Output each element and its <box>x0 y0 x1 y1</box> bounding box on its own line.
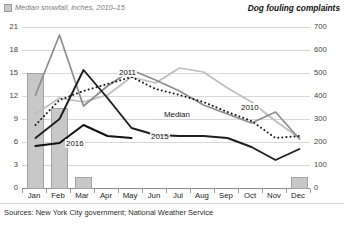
month-label-dec: Dec <box>286 191 310 200</box>
source-note: Sources: New York City government; Natio… <box>4 208 213 217</box>
label-2010: 2010 <box>240 103 260 112</box>
plot-area: 2011 2010 Median 2015 2016 <box>22 27 310 189</box>
right-tick-4: 300 <box>314 115 327 123</box>
right-tick-1: 600 <box>314 46 327 54</box>
footer-rule <box>0 203 344 204</box>
left-tick-2: 15 <box>10 69 18 77</box>
right-tick-0: 700 <box>314 23 327 31</box>
month-label-nov: Nov <box>262 191 286 200</box>
month-label-mar: Mar <box>70 191 94 200</box>
left-tick-4: 9 <box>14 115 18 123</box>
label-2016: 2016 <box>65 139 85 148</box>
right-tick-5: 200 <box>314 138 327 146</box>
chart-title: Dog fouling complaints <box>248 3 340 13</box>
left-tick-6: 3 <box>14 161 18 169</box>
month-label-oct: Oct <box>238 191 262 200</box>
label-2015: 2015 <box>150 132 170 141</box>
right-tick-7: 0 <box>314 184 318 192</box>
left-tick-0: 21 <box>10 23 18 31</box>
left-tick-1: 18 <box>10 46 18 54</box>
month-label-jan: Jan <box>22 191 46 200</box>
xtick-12 <box>310 189 311 193</box>
chart-header: Median snowfall, inches, 2010–15 Dog fou… <box>0 2 344 18</box>
left-tick-7: 0 <box>14 184 18 192</box>
series-lines <box>22 27 310 189</box>
snowfall-legend-label: Median snowfall, inches, 2010–15 <box>15 3 125 12</box>
month-label-sep: Sep <box>214 191 238 200</box>
left-tick-3: 12 <box>10 92 18 100</box>
month-label-may: May <box>118 191 142 200</box>
bar-swatch-icon <box>4 4 12 12</box>
right-tick-2: 500 <box>314 69 327 77</box>
month-label-jun: Jun <box>142 191 166 200</box>
dog-fouling-snowfall-chart: Median snowfall, inches, 2010–15 Dog fou… <box>0 0 344 227</box>
snowfall-legend: Median snowfall, inches, 2010–15 <box>4 3 125 12</box>
right-tick-6: 100 <box>314 161 327 169</box>
month-label-aug: Aug <box>190 191 214 200</box>
label-2011: 2011 <box>118 68 137 77</box>
left-tick-5: 6 <box>14 138 18 146</box>
right-tick-3: 400 <box>314 92 327 100</box>
month-label-apr: Apr <box>94 191 118 200</box>
label-median: Median <box>163 110 191 119</box>
month-label-feb: Feb <box>46 191 70 200</box>
month-label-jul: Jul <box>166 191 190 200</box>
